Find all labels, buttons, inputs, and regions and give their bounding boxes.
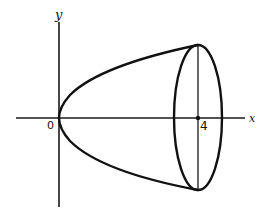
tick-label-4: 4 — [200, 119, 208, 133]
solid-of-revolution-diagram: y x 0 4 — [0, 0, 265, 223]
x-axis-label: x — [249, 112, 256, 125]
y-axis-label: y — [54, 7, 63, 22]
origin-label: 0 — [47, 119, 54, 132]
